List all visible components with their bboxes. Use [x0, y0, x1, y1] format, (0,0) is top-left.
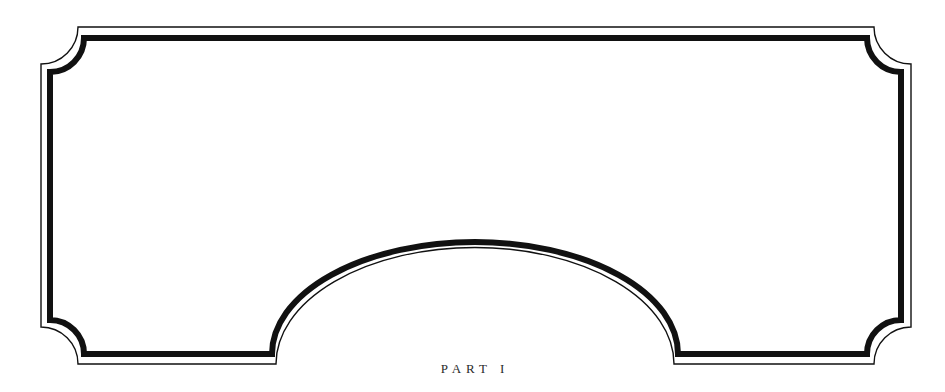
- part-label: PART I: [0, 361, 945, 377]
- inner-thick-rule: [50, 38, 901, 354]
- ornamental-frame: [0, 0, 945, 392]
- outer-thin-rule: [41, 27, 911, 364]
